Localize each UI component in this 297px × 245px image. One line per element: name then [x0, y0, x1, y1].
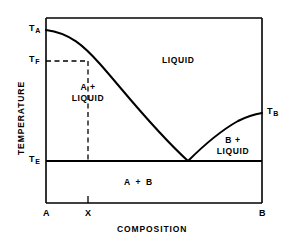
phase-diagram-figure: TA TF TE TB A X B TEMPERATURE COMPOSITIO…: [0, 0, 297, 245]
region-label-b-plus-liquid: B + LIQUID: [207, 135, 259, 157]
region-label-a-plus-liquid-line1: A +: [62, 82, 114, 93]
plot-frame: [46, 18, 262, 203]
y-axis-title: TEMPERATURE: [16, 81, 26, 155]
region-label-a-plus-b: A + B: [124, 177, 154, 188]
y-label-tf: TF: [29, 54, 39, 65]
y-label-ta: TA: [29, 23, 40, 34]
region-label-liquid: LIQUID: [162, 55, 194, 66]
x-label-b: B: [259, 208, 266, 218]
region-label-a-plus-liquid-line2: LIQUID: [62, 93, 114, 104]
x-label-a: A: [43, 208, 50, 218]
x-label-x: X: [85, 208, 91, 218]
y-label-tb: TB: [267, 106, 278, 117]
region-label-a-plus-liquid: A + LIQUID: [62, 82, 114, 104]
region-label-b-plus-liquid-line1: B +: [207, 135, 259, 146]
y-label-te: TE: [29, 154, 40, 165]
x-axis-title: COMPOSITION: [117, 224, 187, 234]
region-label-b-plus-liquid-line2: LIQUID: [207, 146, 259, 157]
